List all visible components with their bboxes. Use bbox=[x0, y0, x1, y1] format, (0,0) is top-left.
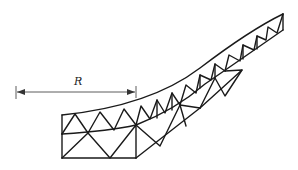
truss-diagram bbox=[0, 0, 298, 170]
lower-web-1 bbox=[62, 125, 136, 158]
web-4 bbox=[225, 14, 283, 71]
truss-structure bbox=[62, 14, 283, 158]
inner-chord bbox=[62, 30, 283, 134]
lower-web-3 bbox=[136, 105, 200, 146]
upper-web bbox=[62, 14, 283, 134]
dimension-label-r: R bbox=[74, 75, 82, 88]
